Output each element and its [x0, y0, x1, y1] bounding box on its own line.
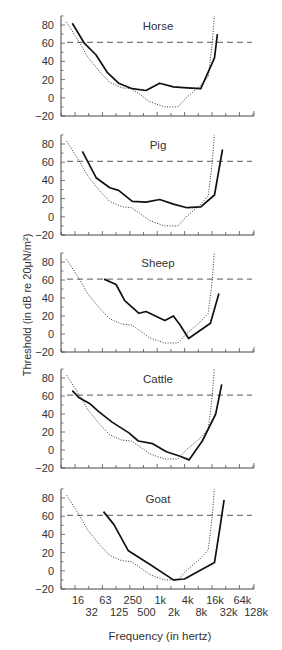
panel-title: Pig	[150, 139, 167, 151]
x-tick-label: 250	[124, 594, 142, 606]
y-tick-label: 60	[42, 156, 54, 168]
x-tick-label: 8k	[195, 606, 207, 618]
panel-pig: 806040200−20Pig	[35, 135, 254, 241]
x-tick-label: 32k	[220, 606, 238, 618]
x-tick-label: 16k	[206, 594, 224, 606]
y-tick-label: 0	[48, 328, 54, 340]
panel-title: Horse	[143, 20, 174, 32]
human-threshold-dotted-curve	[67, 489, 215, 580]
animal-threshold-curve	[72, 384, 221, 460]
y-tick-label: 20	[42, 547, 54, 559]
y-tick-label: 60	[42, 37, 54, 49]
panel-cattle: 806040200−20Cattle	[35, 369, 254, 474]
y-tick-label: 40	[42, 528, 54, 540]
animal-threshold-curve	[72, 23, 217, 90]
x-tick-label: 2k	[168, 606, 180, 618]
y-tick-label: 80	[42, 372, 54, 384]
x-tick-label: 32	[86, 606, 98, 618]
y-tick-label: −20	[35, 110, 54, 122]
human-threshold-dotted-curve	[67, 135, 215, 226]
y-tick-label: 60	[42, 390, 54, 402]
x-tick-label: 63	[99, 594, 111, 606]
panel-goat: 806040200−20Goat	[35, 489, 254, 595]
x-tick-label: 125	[110, 606, 128, 618]
x-tick-label: 64k	[234, 594, 252, 606]
y-tick-label: 20	[42, 310, 54, 322]
y-tick-label: 80	[42, 256, 54, 268]
y-tick-label: 0	[48, 211, 54, 223]
y-tick-label: 0	[48, 444, 54, 456]
y-tick-label: 60	[42, 274, 54, 286]
animal-threshold-curve	[104, 500, 225, 580]
animal-threshold-curve	[82, 150, 222, 208]
y-tick-label: 40	[42, 292, 54, 304]
y-tick-label: 40	[42, 55, 54, 67]
x-tick-label: 128k	[244, 606, 268, 618]
y-tick-label: 80	[42, 19, 54, 31]
y-tick-label: 0	[48, 92, 54, 104]
y-tick-label: 80	[42, 138, 54, 150]
x-tick-label: 1k	[154, 594, 166, 606]
x-axis-label: Frequency (in hertz)	[109, 630, 212, 642]
y-tick-label: −20	[35, 583, 54, 595]
panel-title: Sheep	[141, 257, 174, 269]
y-tick-label: 0	[48, 565, 54, 577]
human-threshold-dotted-curve	[67, 16, 215, 107]
panel-title: Cattle	[143, 373, 173, 385]
panel-horse: 806040200−20Horse	[35, 16, 254, 122]
y-tick-label: 80	[42, 492, 54, 504]
y-tick-label: −20	[35, 346, 54, 358]
y-tick-label: 40	[42, 408, 54, 420]
hearing-threshold-figure: 806040200−20Horse806040200−20Pig80604020…	[0, 0, 282, 650]
y-tick-label: 20	[42, 193, 54, 205]
x-tick-label: 4k	[182, 594, 194, 606]
y-tick-label: −20	[35, 229, 54, 241]
y-tick-label: 40	[42, 174, 54, 186]
y-tick-label: 20	[42, 426, 54, 438]
audiogram-panels: 806040200−20Horse806040200−20Pig80604020…	[0, 0, 282, 650]
y-tick-label: −20	[35, 462, 54, 474]
x-tick-label: 16	[72, 594, 84, 606]
x-tick-label: 500	[137, 606, 155, 618]
y-axis-label: Threshold (in dB re 20μN/m²)	[21, 234, 33, 377]
human-threshold-dotted-curve	[67, 369, 215, 459]
panel-title: Goat	[146, 493, 172, 505]
panel-sheep: 806040200−20Sheep	[35, 253, 254, 358]
y-tick-label: 60	[42, 510, 54, 522]
y-tick-label: 20	[42, 74, 54, 86]
animal-threshold-curve	[104, 279, 219, 338]
